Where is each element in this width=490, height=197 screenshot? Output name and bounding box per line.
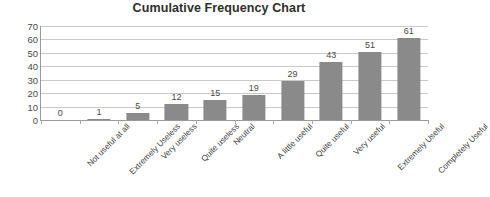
x-tick-mark (312, 120, 313, 124)
bar-value-label: 15 (210, 89, 220, 98)
y-tick-label: 0 (2, 116, 38, 125)
bar-value-label: 5 (135, 102, 140, 111)
bar-value-label: 61 (404, 27, 414, 36)
x-tick-mark (157, 120, 158, 124)
x-category-label: Very useful (352, 122, 387, 157)
x-tick-mark (196, 120, 197, 124)
bar[interactable] (358, 52, 381, 120)
y-tick-label: 60 (2, 35, 38, 44)
bar-value-label: 43 (326, 51, 336, 60)
x-tick-mark (118, 120, 119, 124)
x-tick-mark (41, 120, 42, 124)
x-category-label: Quite useful (314, 122, 351, 159)
bar-slot: 19 (235, 26, 274, 120)
bar[interactable] (87, 119, 110, 120)
bar-value-label: 0 (58, 109, 63, 118)
bar-slot: 0 (41, 26, 80, 120)
y-tick-label: 20 (2, 89, 38, 98)
y-tick-label: 10 (2, 103, 38, 112)
y-tick-label: 50 (2, 49, 38, 58)
bar-slot: 29 (273, 26, 312, 120)
bar-value-label: 1 (97, 108, 102, 117)
x-tick-mark (351, 120, 352, 124)
bar-value-label: 19 (249, 84, 259, 93)
x-tick-mark (235, 120, 236, 124)
bar-slot: 15 (196, 26, 235, 120)
y-tick-label: 40 (2, 62, 38, 71)
bar-value-label: 29 (288, 70, 298, 79)
bar[interactable] (320, 62, 343, 120)
bar-slot: 1 (80, 26, 119, 120)
bar-value-label: 51 (365, 41, 375, 50)
x-category-label: A little useful (276, 122, 315, 161)
bar-slot: 61 (389, 26, 428, 120)
x-tick-mark (428, 120, 429, 124)
x-tick-mark (273, 120, 274, 124)
x-axis-category-labels: Not useful at allExtremely UselessVery u… (41, 122, 428, 197)
chart-title: Cumulative Frequency Chart (0, 1, 438, 15)
bar[interactable] (165, 104, 188, 120)
bar[interactable] (242, 95, 265, 121)
y-tick-label: 30 (2, 76, 38, 85)
y-tick-label: 70 (2, 22, 38, 31)
bar-slot: 5 (118, 26, 157, 120)
x-tick-mark (389, 120, 390, 124)
bar-slot: 12 (157, 26, 196, 120)
bar-value-label: 12 (171, 93, 181, 102)
bar[interactable] (204, 100, 227, 120)
bars-layer: 01512151929435161 (41, 26, 428, 120)
bar-slot: 43 (312, 26, 351, 120)
bar[interactable] (281, 81, 304, 120)
bar[interactable] (126, 113, 149, 120)
x-category-label: Not useful at all (85, 122, 131, 168)
bar-slot: 51 (351, 26, 390, 120)
bar[interactable] (397, 38, 420, 120)
y-axis-tick-labels: 010203040506070 (0, 0, 38, 197)
x-tick-mark (80, 120, 81, 124)
